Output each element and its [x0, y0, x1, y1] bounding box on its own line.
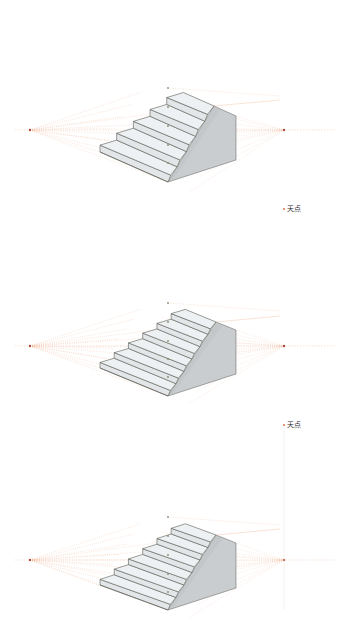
guide-line [236, 543, 284, 560]
guide-line [236, 116, 284, 130]
center-mark-icon [167, 535, 169, 537]
center-mark-icon [167, 591, 169, 593]
guide-line [30, 560, 113, 565]
center-mark-icon [167, 87, 169, 89]
zenith-point-icon [283, 424, 285, 426]
guide-line [228, 556, 284, 561]
left-vanishing-point-icon [29, 129, 31, 131]
guide-line [236, 330, 284, 346]
center-mark-icon [167, 321, 169, 323]
zenith-point-icon [283, 208, 285, 210]
guide-line [30, 128, 116, 130]
guide-line [228, 342, 284, 346]
stairs-2 [15, 302, 335, 404]
stairs-1 [15, 87, 335, 192]
center-mark-icon [167, 554, 169, 556]
guide-line [30, 319, 133, 346]
guide-line [30, 329, 127, 346]
guide-line [30, 524, 140, 560]
left-vanishing-point-icon [29, 559, 31, 561]
guide-line [216, 316, 280, 322]
right-vanishing-point-icon [283, 129, 285, 131]
guide-line [30, 130, 100, 152]
zenith-label-1: 天点 [283, 203, 301, 213]
guide-line [30, 104, 132, 130]
center-mark-icon [167, 516, 169, 518]
guide-line [216, 529, 280, 535]
zenith-label-2: 天点 [283, 419, 301, 429]
guide-line [30, 544, 127, 560]
center-mark-icon [167, 162, 169, 164]
center-mark-icon [167, 302, 169, 304]
left-vanishing-point-icon [29, 345, 31, 347]
center-mark-icon [167, 376, 169, 378]
guide-line [30, 560, 100, 585]
guide-line [214, 100, 280, 106]
guide-line [30, 93, 140, 131]
center-mark-icon [167, 340, 169, 342]
center-mark-icon [167, 125, 169, 127]
guide-line [30, 309, 140, 346]
right-vanishing-point-icon [283, 345, 285, 347]
center-mark-icon [167, 573, 169, 575]
stairs-3 [15, 428, 335, 618]
center-mark-icon [167, 106, 169, 108]
perspective-stairs-diagram [0, 0, 351, 625]
guide-line [30, 346, 100, 368]
center-mark-icon [167, 144, 169, 146]
guide-line [30, 534, 133, 560]
center-mark-icon [167, 358, 169, 360]
